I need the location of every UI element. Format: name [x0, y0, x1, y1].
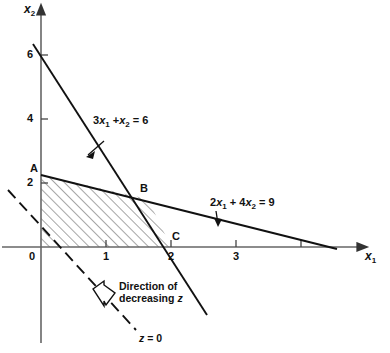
vertex-label-b: B	[140, 182, 148, 194]
y-axis-label-sub: 2	[31, 9, 35, 18]
feasible-region-hatched	[41, 175, 171, 247]
vertex-label-c: C	[172, 230, 180, 242]
constraint-label-2: 2x1 + 4x2 = 9	[210, 196, 275, 212]
linear-programming-figure: 6 4 2 0 1 2 3 x2 x1 A B C 3x1 +x2 = 6 2x…	[0, 0, 390, 353]
decreasing-z-annotation: Direction of decreasing z	[119, 281, 183, 304]
decreasing-z-var: z	[177, 292, 182, 304]
z-var: z	[139, 332, 144, 344]
x-axis-label-var: x	[365, 249, 372, 263]
c2-plus: + 4	[230, 196, 246, 208]
y-axis-label-var: x	[24, 2, 31, 16]
x-axis-label: x1	[365, 250, 376, 266]
y-tick-label-6: 6	[27, 48, 33, 60]
origin-label: 0	[29, 250, 35, 262]
c2-rhs: = 9	[259, 196, 275, 208]
c1-rhs: = 6	[133, 114, 149, 126]
y-axis-label: x2	[24, 3, 35, 19]
x-tick-label-1: 1	[103, 250, 109, 262]
c2-sub1: 1	[222, 202, 226, 211]
x-tick-label-3: 3	[233, 250, 239, 262]
vertex-label-a: A	[30, 162, 38, 174]
constraint-label-1: 3x1 +x2 = 6	[93, 114, 148, 130]
decreasing-z-line2: decreasing z	[119, 293, 183, 305]
z-eq: = 0	[147, 332, 162, 344]
c2-sub2: 2	[252, 202, 256, 211]
y-tick-label-4: 4	[27, 112, 33, 124]
x-axis-label-sub: 1	[372, 256, 376, 265]
pointer-arrowhead-line2	[214, 218, 222, 227]
c1-sub2: 2	[125, 120, 129, 129]
decreasing-z-line2-text: decreasing	[119, 292, 177, 304]
x-tick-label-2: 2	[168, 250, 174, 262]
y-tick-label-2: 2	[27, 176, 33, 188]
c1-sub1: 1	[105, 120, 109, 129]
graph-canvas	[0, 0, 390, 353]
decreasing-z-block-arrow	[93, 281, 115, 306]
z-equals-zero-label: z = 0	[139, 333, 162, 345]
